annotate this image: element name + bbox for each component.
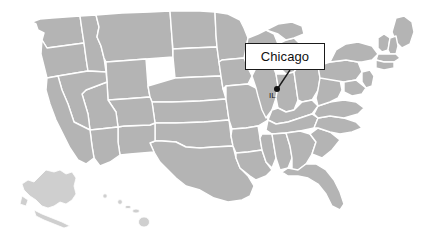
chicago-callout-label: Chicago: [261, 50, 309, 63]
hawaii-island-oahu: [118, 200, 123, 205]
us-map-figure: Chicago IL: [0, 0, 448, 248]
contiguous-states-group: [32, 11, 414, 210]
alaska-shape: [20, 170, 76, 228]
state-new-mexico: [118, 123, 155, 155]
state-new-jersey: [362, 70, 374, 88]
hawaii-island-molokai: [125, 205, 131, 208]
state-connecticut: [376, 60, 394, 70]
inset-alaska: [20, 170, 76, 228]
state-south-dakota: [173, 47, 221, 78]
state-montana: [96, 11, 173, 62]
hawaii-island-maui: [133, 209, 140, 213]
state-kansas: [152, 99, 229, 123]
state-arkansas: [231, 126, 262, 153]
inset-hawaii: [103, 194, 150, 227]
hawaii-island-big-island: [139, 217, 150, 227]
state-north-dakota: [170, 11, 217, 49]
state-abbr-label-il: IL: [269, 92, 276, 100]
state-nebraska: [148, 76, 226, 102]
state-arizona: [90, 127, 120, 166]
state-new-hampshire: [388, 36, 398, 54]
state-florida: [282, 164, 344, 210]
chicago-callout-box[interactable]: Chicago: [245, 43, 325, 70]
state-washington: [32, 16, 84, 48]
us-map-svg: [0, 0, 448, 248]
hawaii-island-kauai: [103, 194, 107, 198]
state-wyoming: [106, 59, 150, 100]
state-new-york: [330, 42, 378, 62]
state-minnesota: [215, 12, 248, 62]
